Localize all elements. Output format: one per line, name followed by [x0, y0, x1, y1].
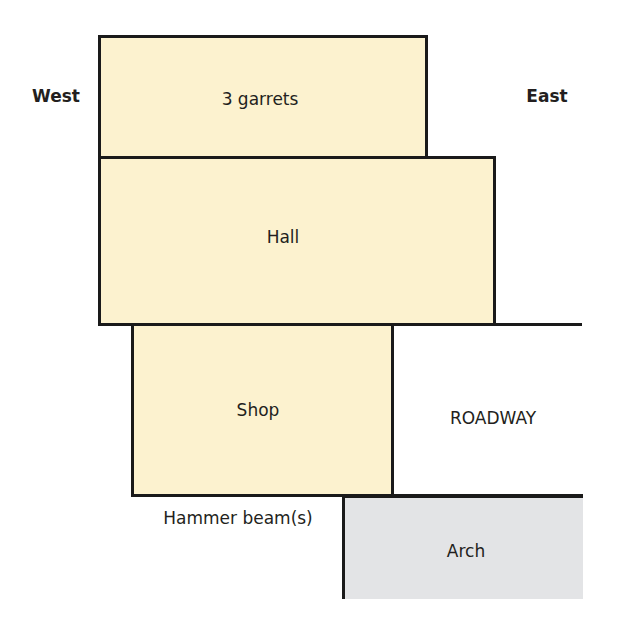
- hammer-beams-label: Hammer beam(s): [163, 508, 313, 528]
- hall-label: Hall: [267, 227, 300, 247]
- garrets-label: 3 garrets: [222, 89, 299, 109]
- roadway-upper-line: [494, 323, 582, 326]
- west-label: West: [32, 86, 80, 106]
- east-label: East: [526, 86, 567, 106]
- arch-label: Arch: [447, 541, 485, 561]
- shop-label: Shop: [237, 400, 280, 420]
- roadway-lower-line: [392, 494, 583, 497]
- roadway-label: ROADWAY: [450, 408, 536, 428]
